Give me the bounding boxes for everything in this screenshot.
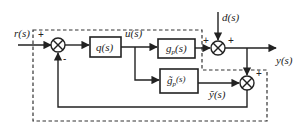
model-block: g̃p(s) xyxy=(160,69,198,93)
plant-plus-sign: + xyxy=(203,35,209,46)
input-minus-sign: - xyxy=(63,53,66,64)
model-branch-wire xyxy=(135,47,159,80)
input-plus-sign: + xyxy=(38,29,44,40)
output-label: y(s) xyxy=(275,54,293,67)
control-label: u(s) xyxy=(125,27,142,40)
feedback-plus-sign: + xyxy=(256,68,262,79)
input-summing-junction xyxy=(51,38,65,52)
plant-block: gp(s) xyxy=(158,39,195,58)
imc-block-diagram: r(s) + - q(s) u(s) gp(s) + + d(s) y(s) xyxy=(0,0,305,132)
model-output-label: ỹ(s) xyxy=(208,88,226,101)
disturbance-summing-junction xyxy=(211,41,225,55)
feedback-summing-junction xyxy=(240,76,254,90)
disturbance-label: d(s) xyxy=(222,11,239,24)
reference-label: r(s) xyxy=(14,27,30,40)
controller-block: q(s) xyxy=(90,37,121,57)
svg-text:q(s): q(s) xyxy=(96,41,113,54)
disturbance-plus-sign: + xyxy=(228,35,234,46)
svg-text:gp(s): gp(s) xyxy=(166,42,187,56)
